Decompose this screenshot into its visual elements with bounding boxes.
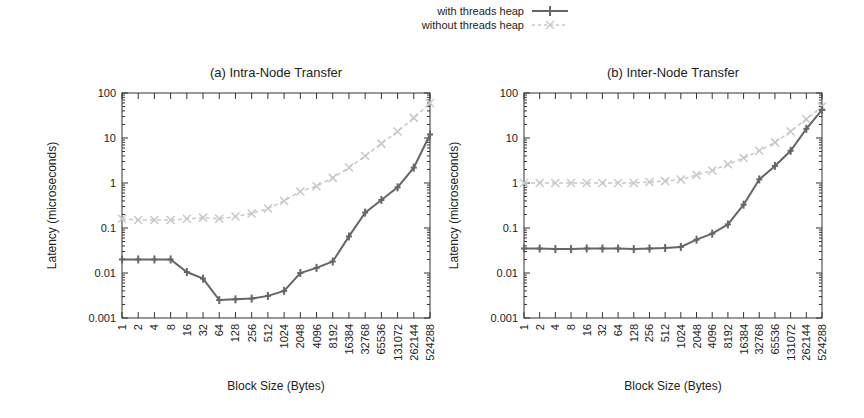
x-tick-label: 262144 (800, 324, 812, 361)
x-tick-label: 8192 (327, 324, 339, 348)
x-tick-label: 2048 (294, 324, 306, 348)
x-tick-label: 4 (148, 324, 160, 330)
y-tick-label: 0.01 (497, 267, 518, 279)
x-tick-label: 262144 (408, 324, 420, 361)
x-tick-label: 1 (116, 324, 128, 330)
x-tick-label: 32 (596, 324, 608, 336)
x-tick-label: 32 (197, 324, 209, 336)
series-without-heap-line (122, 103, 430, 220)
x-tick-label: 8 (165, 324, 177, 330)
y-axis-label: Latency (microseconds) (447, 142, 461, 269)
y-tick-label: 0.1 (503, 222, 518, 234)
x-tick-label: 131072 (785, 324, 797, 361)
charts-canvas: (a) Intra-Node Transfer0.0010.010.111010… (0, 0, 864, 418)
x-tick-label: 4 (549, 324, 561, 330)
y-tick-label: 100 (98, 87, 116, 99)
x-tick-label: 32768 (359, 324, 371, 355)
x-tick-label: 16384 (738, 324, 750, 355)
chart-intra-node: (a) Intra-Node Transfer0.0010.010.111010… (45, 65, 436, 393)
x-tick-label: 8 (565, 324, 577, 330)
x-axis-label: Block Size (Bytes) (624, 379, 721, 393)
chart-title: (b) Inter-Node Transfer (607, 65, 740, 80)
x-tick-label: 1024 (675, 324, 687, 348)
y-axis-label: Latency (microseconds) (45, 142, 59, 269)
x-tick-label: 128 (628, 324, 640, 342)
y-tick-label: 1 (512, 177, 518, 189)
x-tick-label: 64 (213, 324, 225, 336)
x-tick-label: 256 (246, 324, 258, 342)
y-tick-label: 0.001 (88, 312, 116, 324)
x-tick-label: 1024 (278, 324, 290, 348)
x-tick-label: 8192 (722, 324, 734, 348)
series-with-heap-line (524, 110, 822, 249)
y-tick-label: 100 (500, 87, 518, 99)
chart-inter-node: (b) Inter-Node Transfer0.0010.010.111010… (447, 65, 828, 393)
x-tick-label: 131072 (392, 324, 404, 361)
x-tick-label: 524288 (424, 324, 436, 361)
y-tick-label: 0.01 (95, 267, 116, 279)
x-tick-label: 16 (581, 324, 593, 336)
y-tick-label: 0.001 (490, 312, 518, 324)
x-tick-label: 65536 (769, 324, 781, 355)
x-tick-label: 2 (534, 324, 546, 330)
x-tick-label: 512 (659, 324, 671, 342)
x-tick-label: 32768 (753, 324, 765, 355)
x-tick-label: 128 (229, 324, 241, 342)
x-tick-label: 256 (643, 324, 655, 342)
x-tick-label: 1 (518, 324, 530, 330)
x-tick-label: 64 (612, 324, 624, 336)
x-tick-label: 512 (262, 324, 274, 342)
x-tick-label: 16 (181, 324, 193, 336)
y-tick-label: 1 (110, 177, 116, 189)
x-tick-label: 16384 (343, 324, 355, 355)
x-tick-label: 4096 (706, 324, 718, 348)
chart-title: (a) Intra-Node Transfer (210, 65, 343, 80)
x-tick-label: 65536 (375, 324, 387, 355)
y-tick-label: 10 (506, 132, 518, 144)
x-axis-label: Block Size (Bytes) (227, 379, 324, 393)
plot-frame (524, 93, 822, 318)
y-tick-label: 10 (104, 132, 116, 144)
x-tick-label: 524288 (816, 324, 828, 361)
x-tick-label: 4096 (311, 324, 323, 348)
x-tick-label: 2 (132, 324, 144, 330)
x-tick-label: 2048 (691, 324, 703, 348)
y-tick-label: 0.1 (101, 222, 116, 234)
